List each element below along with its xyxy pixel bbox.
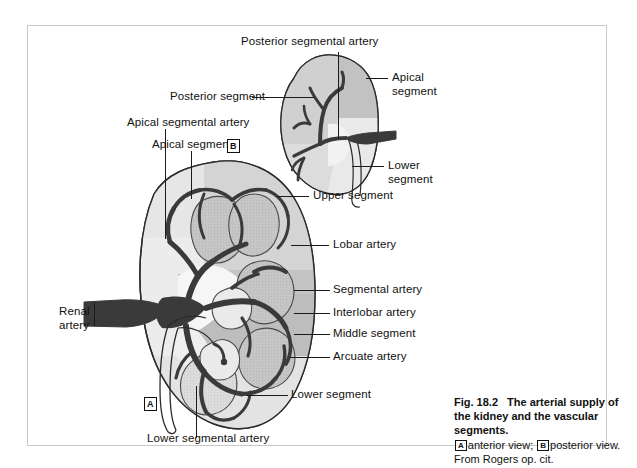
label-renal-artery-line1: Renal [59, 305, 90, 319]
caption-detail-line: Aanterior view; Bposterior view. From Ro… [454, 438, 622, 466]
leader-lower-segmental-artery [196, 386, 197, 438]
label-posterior-segment: Posterior segment [170, 90, 265, 104]
leader-upper-segment [277, 196, 309, 197]
label-apical-segmental-artery: Apical segmental artery [127, 116, 249, 130]
panel-marker-a: A [144, 397, 157, 411]
label-lobar-artery: Lobar artery [333, 238, 396, 252]
label-apical-segment-b-line2: segment [392, 85, 437, 99]
leader-middle-segment [294, 334, 330, 335]
figure-frame: Posterior segmental artery Posterior seg… [27, 25, 607, 446]
label-apical-segment-b-line1: Apical [392, 71, 424, 85]
figure-number: Fig. 18.2 [454, 396, 498, 408]
leader-arcuate-artery [290, 357, 330, 358]
label-posterior-segmental-artery: Posterior segmental artery [241, 35, 378, 49]
label-lower-segment-b-line1: Lower [388, 159, 420, 173]
kidney-vascular-diagram [28, 26, 608, 447]
label-lower-segmental-artery: Lower segmental artery [147, 432, 269, 446]
label-lower-segment-b-line2: segment [388, 173, 433, 187]
leader-lower-segment-b [352, 166, 384, 167]
caption-title-line: Fig. 18.2 The arterial supply of the kid… [454, 395, 622, 437]
label-lower-segment-a: Lower segment [291, 388, 371, 402]
leader-posterior-segmental-artery [338, 52, 339, 139]
label-middle-segment: Middle segment [333, 327, 416, 341]
caption-marker-a: A [455, 440, 467, 451]
leader-renal-artery [94, 302, 95, 326]
leader-apical-segment-a [191, 151, 192, 199]
label-interlobar-artery: Interlobar artery [333, 306, 416, 320]
panel-b-kidney [272, 52, 396, 208]
leader-interlobar-artery [294, 313, 330, 314]
caption-marker-b: B [537, 440, 549, 451]
leader-segmental-artery [294, 290, 330, 291]
label-apical-segment-a: Apical segment [152, 138, 232, 152]
leader-lobar-artery [291, 245, 329, 246]
caption-text-a: anterior view; [468, 439, 533, 451]
label-upper-segment: Upper segment [313, 189, 393, 203]
label-segmental-artery: Segmental artery [333, 283, 422, 297]
leader-apical-segment-b [366, 78, 388, 79]
panel-marker-b: B [227, 139, 240, 153]
leader-lower-segment-a [246, 395, 288, 396]
label-renal-artery-line2: artery [59, 319, 89, 333]
figure-caption: Fig. 18.2 The arterial supply of the kid… [454, 395, 622, 466]
label-arcuate-artery: Arcuate artery [333, 350, 407, 364]
